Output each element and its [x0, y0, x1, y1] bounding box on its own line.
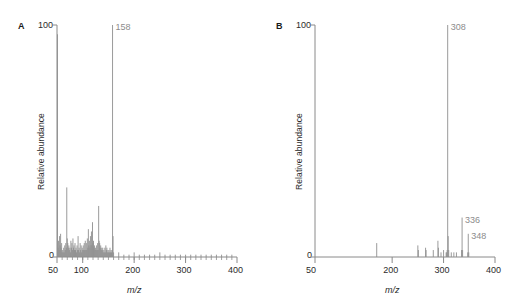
panel-b-xtick-300: 300 — [435, 265, 450, 275]
panel-a-xtick-50: 50 — [48, 265, 58, 275]
panel-b-xtick-200: 200 — [383, 265, 398, 275]
panel-a-y-axis-title: Relative abundance — [36, 113, 46, 190]
panel-a-spectrum — [57, 25, 237, 275]
panel-b-peak-label-336: 336 — [465, 215, 480, 225]
panel-a-letter: A — [18, 21, 25, 31]
panel-a-xtick-300: 300 — [177, 265, 192, 275]
panel-b-y-axis-title: Relative abundance — [294, 113, 304, 190]
panel-b: B 100 0 Relative abundance m/z 502003004… — [262, 0, 524, 308]
mass-spectra-figure: A 100 0 Relative abundance m/z 501002003… — [0, 0, 524, 308]
panel-a-y-min-label: 0 — [49, 250, 54, 260]
panel-a: A 100 0 Relative abundance m/z 501002003… — [0, 0, 262, 308]
panel-a-peak-label-158: 158 — [116, 22, 131, 32]
panel-a-xtick-400: 400 — [228, 265, 243, 275]
panel-a-xtick-200: 200 — [125, 265, 140, 275]
panel-b-y-max-label: 100 — [296, 20, 311, 30]
panel-b-spectrum — [315, 25, 495, 275]
panel-b-x-axis-title: m/z — [385, 285, 400, 295]
panel-a-xtick-100: 100 — [74, 265, 89, 275]
panel-a-x-axis-title: m/z — [127, 285, 142, 295]
panel-b-peak-label-308: 308 — [451, 22, 466, 32]
panel-b-xtick-400: 400 — [486, 265, 501, 275]
panel-a-y-max-label: 100 — [38, 20, 53, 30]
panel-b-y-min-label: 0 — [307, 250, 312, 260]
panel-b-peak-label-348: 348 — [471, 231, 486, 241]
panel-b-xtick-50: 50 — [306, 265, 316, 275]
panel-a-plot-area — [57, 25, 237, 257]
panel-b-letter: B — [276, 21, 283, 31]
